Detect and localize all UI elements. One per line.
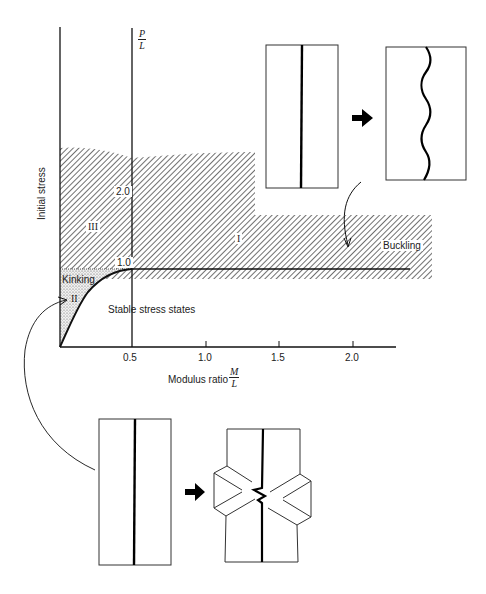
stable-label: Stable stress states [108, 304, 195, 315]
y-axis-label: Initial stress [36, 167, 47, 220]
x-tick-1-5: 1.5 [271, 352, 285, 363]
kinking-transition-arrow [185, 483, 205, 501]
buckling-label: Buckling [381, 240, 423, 251]
inset-kinking-before [99, 419, 171, 565]
inset-kinking-after [214, 429, 311, 562]
kinking-label: Kinking [62, 274, 95, 285]
x-tick-1-0: 1.0 [198, 352, 212, 363]
x-axis-label: Modulus ratio [168, 374, 228, 385]
inset-buckling-before [266, 45, 338, 188]
region-III-label: III [86, 221, 100, 232]
y-tick-2: 2.0 [114, 186, 132, 197]
x-axis-frac: M L [229, 366, 239, 389]
x-tick-2-0: 2.0 [345, 352, 359, 363]
buckling-transition-arrow [352, 109, 373, 127]
inset-buckling-after [386, 47, 466, 180]
y2-axis-label: P L [138, 28, 146, 51]
y-tick-1: 1.0 [115, 257, 133, 268]
x-tick-0-5: 0.5 [123, 352, 137, 363]
region-I-label: I [235, 233, 242, 244]
region-II-label: II [69, 293, 80, 304]
